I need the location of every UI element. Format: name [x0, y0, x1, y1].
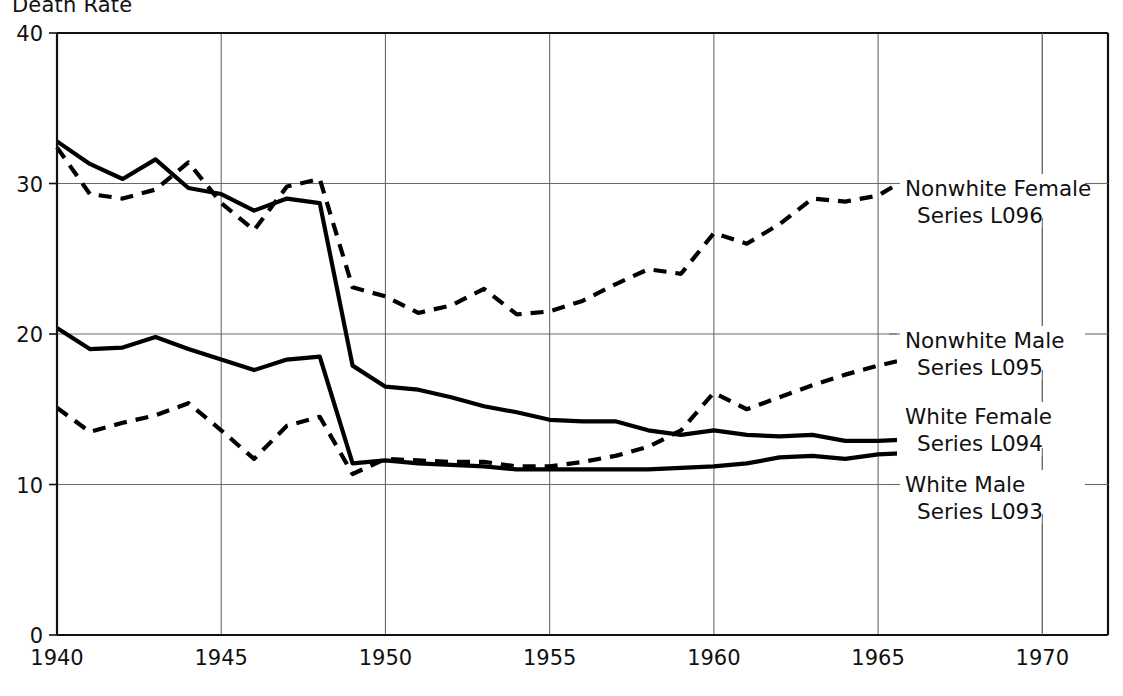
- x-tick-label: 1965: [851, 646, 904, 670]
- series-line-L095: [57, 141, 944, 447]
- y-tick-label: 10: [16, 474, 43, 498]
- x-tick-label: 1940: [30, 646, 83, 670]
- x-tick-label: 1945: [194, 646, 247, 670]
- series-annotation-name: White Male: [905, 472, 1025, 497]
- y-tick-label: 40: [16, 22, 43, 46]
- x-tick-label: 1970: [1016, 646, 1069, 670]
- x-tick-label: 1960: [687, 646, 740, 670]
- y-axis-tick-labels: 010203040: [16, 22, 43, 648]
- x-tick-label: 1955: [523, 646, 576, 670]
- series-annotation-code: Series L096: [917, 203, 1043, 228]
- series-annotation-code: Series L095: [917, 355, 1043, 380]
- series-annotation-code: Series L094: [917, 431, 1043, 456]
- y-tick-label: 30: [16, 173, 43, 197]
- series-line-L096: [57, 147, 944, 314]
- x-axis-tick-labels: 1940194519501955196019651970: [30, 646, 1069, 670]
- series-line-L093: [57, 328, 944, 469]
- y-tick-label: 0: [30, 624, 43, 648]
- chart-plot-area: 010203040 1940194519501955196019651970 N…: [0, 0, 1123, 696]
- series-annotation-name: Nonwhite Female: [905, 176, 1091, 201]
- x-tick-label: 1950: [359, 646, 412, 670]
- series-annotation-name: Nonwhite Male: [905, 328, 1064, 353]
- series-annotation-name: White Female: [905, 404, 1052, 429]
- series-paths: [57, 141, 944, 474]
- y-tick-label: 20: [16, 323, 43, 347]
- series-annotation-code: Series L093: [917, 499, 1043, 524]
- death-rate-chart: Death Rate 010203040 1940194519501955196…: [0, 0, 1123, 696]
